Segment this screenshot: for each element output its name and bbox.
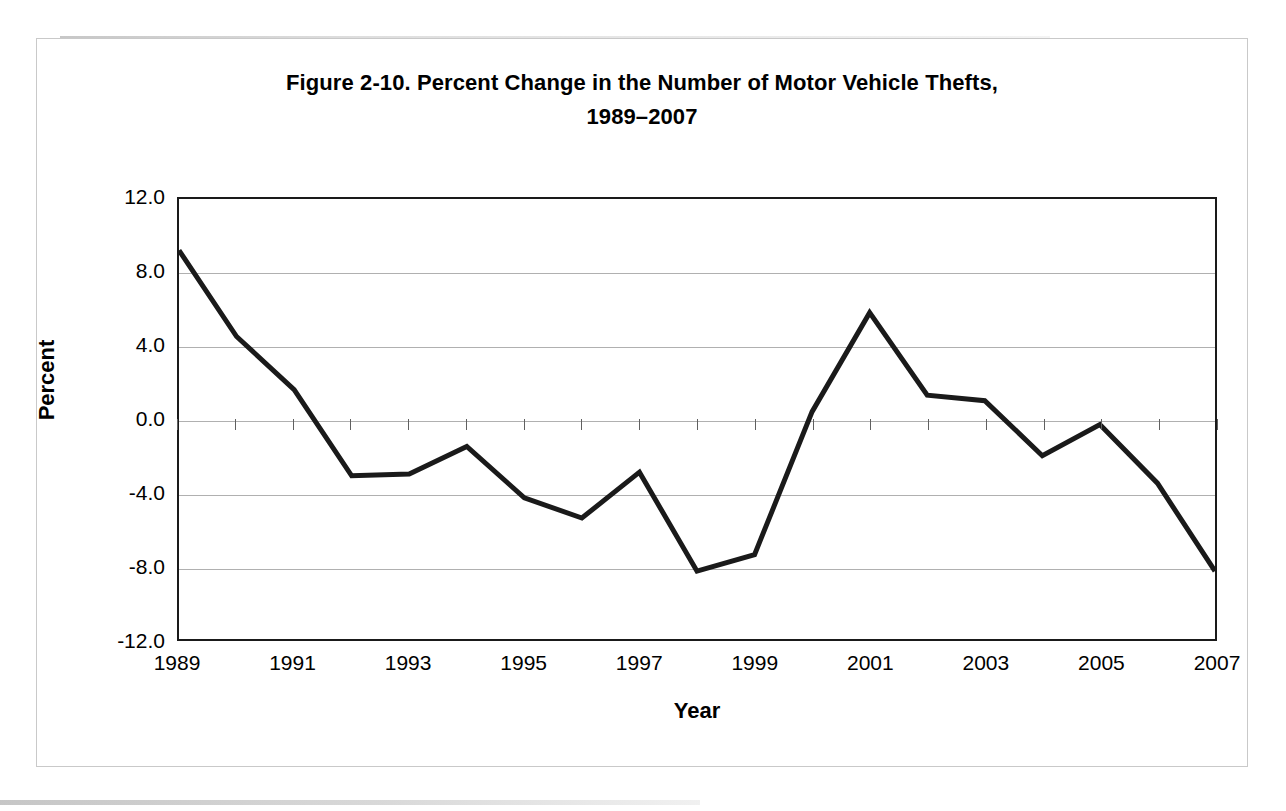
x-tick-mark	[986, 419, 987, 430]
y-tick-label: 0.0	[55, 407, 165, 431]
x-tick-mark	[870, 419, 871, 430]
x-tick-mark	[466, 419, 467, 430]
x-tick-mark	[408, 419, 409, 430]
y-tick-label: -4.0	[55, 481, 165, 505]
chart-title-line-a: Figure 2-10. Percent Change in the Numbe…	[36, 66, 1248, 100]
x-tick-label: 1989	[122, 651, 232, 675]
figure-page: Figure 2-10. Percent Change in the Numbe…	[0, 0, 1286, 811]
x-tick-label: 2007	[1162, 651, 1272, 675]
y-tick-label: -12.0	[55, 629, 165, 653]
x-tick-label: 2005	[1046, 651, 1156, 675]
scan-artifact-bottom	[0, 800, 700, 805]
x-tick-mark	[639, 419, 640, 430]
x-tick-mark	[1044, 419, 1045, 430]
y-tick-label: -8.0	[55, 555, 165, 579]
x-tick-label: 1993	[353, 651, 463, 675]
y-tick-label: 8.0	[55, 259, 165, 283]
x-tick-mark	[581, 419, 582, 430]
x-tick-mark	[177, 419, 178, 430]
x-tick-mark	[697, 419, 698, 430]
x-tick-label: 1995	[469, 651, 579, 675]
x-tick-mark	[235, 419, 236, 430]
x-tick-mark	[1159, 419, 1160, 430]
x-tick-mark	[755, 419, 756, 430]
x-axis-tick-labels: 1989199119931995199719992001200320052007	[177, 651, 1217, 681]
x-tick-mark	[524, 419, 525, 430]
x-tick-label: 2001	[815, 651, 925, 675]
y-axis-title: Percent	[34, 320, 60, 440]
x-axis-title: Year	[177, 698, 1217, 724]
chart-title: Figure 2-10. Percent Change in the Numbe…	[36, 66, 1248, 134]
x-tick-mark	[928, 419, 929, 430]
y-tick-label: 4.0	[55, 333, 165, 357]
y-axis-tick-labels: 12.08.04.00.0-4.0-8.0-12.0	[45, 197, 165, 641]
x-tick-mark	[1217, 419, 1218, 430]
x-tick-label: 1991	[238, 651, 348, 675]
chart-title-line-b: 1989–2007	[36, 100, 1248, 134]
y-tick-label: 12.0	[55, 185, 165, 209]
x-tick-mark	[293, 419, 294, 430]
x-tick-label: 1999	[700, 651, 810, 675]
x-tick-mark	[350, 419, 351, 430]
x-tick-mark	[813, 419, 814, 430]
x-tick-mark	[1101, 419, 1102, 430]
data-series-line	[179, 250, 1215, 571]
x-tick-label: 2003	[931, 651, 1041, 675]
x-tick-label: 1997	[584, 651, 694, 675]
x-axis-tick-marks	[177, 419, 1217, 431]
